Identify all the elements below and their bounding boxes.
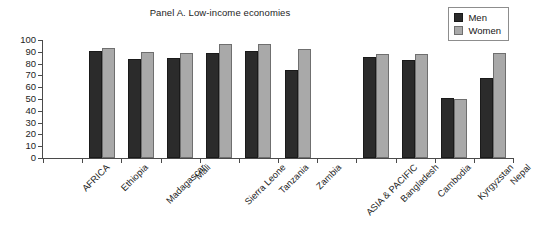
legend-item-men: Men [454, 11, 501, 24]
y-axis-tick-label: 30 [25, 118, 36, 128]
x-axis-label: Ethiopia [120, 163, 151, 194]
bar-group [396, 40, 435, 158]
bar-mali-men [167, 58, 180, 158]
chart-title: Panel A. Low-income economies [0, 7, 440, 18]
bar-group [82, 40, 121, 158]
x-axis-label: Zambia [315, 163, 344, 192]
bar-bangladesh-women [376, 54, 389, 158]
bar-madagascar-men [128, 59, 141, 158]
bar-ethiopia-women [102, 48, 115, 158]
bar-zambia-women [298, 49, 311, 158]
bar-sierra-leone-women [219, 44, 232, 158]
y-axis-tick-label: 20 [25, 130, 36, 140]
bar-bangladesh-men [363, 57, 376, 158]
y-axis-tick-label: 80 [25, 59, 36, 69]
bar-zambia-men [285, 70, 298, 159]
y-axis-tick-label: 90 [25, 47, 36, 57]
bar-cambodia-women [415, 54, 428, 158]
bars-layer [43, 40, 513, 158]
bar-group [121, 40, 160, 158]
bar-sierra-leone-men [206, 53, 219, 158]
bar-mali-women [180, 53, 193, 158]
bar-madagascar-women [141, 52, 154, 158]
legend-item-women: Women [454, 24, 501, 37]
y-axis-tick-label: 50 [25, 94, 36, 104]
chart-legend: Men Women [448, 7, 509, 41]
bar-group [200, 40, 239, 158]
bar-group [161, 40, 200, 158]
bar-kyrgyzstan-women [454, 99, 467, 158]
bar-group [278, 40, 317, 158]
bar-group [43, 40, 82, 158]
y-axis: 0102030405060708090100 [0, 40, 42, 158]
bar-cambodia-men [402, 60, 415, 158]
x-axis-labels: AFRICAEthiopiaMadagascarMaliSierra Leone… [0, 160, 517, 243]
bar-tanzania-men [245, 51, 258, 158]
bar-group [356, 40, 395, 158]
y-axis-tick-label: 40 [25, 106, 36, 116]
x-axis-label: Kyrgyzstan [476, 163, 515, 202]
x-axis-label: Cambodia [436, 163, 473, 200]
bar-nepal-women [493, 53, 506, 158]
bar-group [474, 40, 513, 158]
bar-nepal-men [480, 78, 493, 158]
y-axis-tick-label: 70 [25, 71, 36, 81]
legend-label-women: Women [468, 26, 501, 36]
bar-group [239, 40, 278, 158]
bar-kyrgyzstan-men [441, 98, 454, 158]
y-axis-tick-label: 100 [20, 35, 36, 45]
x-axis-label: AFRICA [81, 163, 112, 194]
legend-label-men: Men [468, 13, 486, 23]
bar-group [317, 40, 356, 158]
bar-ethiopia-men [89, 51, 102, 158]
bar-group [435, 40, 474, 158]
legend-square-icon-men [454, 13, 463, 22]
bar-tanzania-women [258, 44, 271, 158]
legend-square-icon-women [454, 26, 463, 35]
y-axis-tick-label: 10 [25, 141, 36, 151]
y-axis-tick-label: 60 [25, 82, 36, 92]
